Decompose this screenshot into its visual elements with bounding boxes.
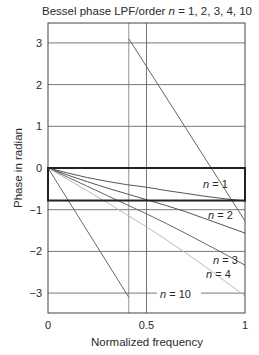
y-axis-label: Phase in radian <box>12 128 24 208</box>
x-tick-label: 0 <box>45 319 51 331</box>
y-tick-label: −2 <box>29 245 42 257</box>
series-label: n = 2 <box>208 209 233 221</box>
series-label: n = 4 <box>206 268 231 280</box>
series-label: n = 1 <box>203 178 228 190</box>
y-tick-label: 3 <box>36 37 42 49</box>
series-label: n = 10 <box>160 288 191 300</box>
y-tick-label: −3 <box>29 287 42 299</box>
x-axis-label: Normalized frequency <box>91 336 203 348</box>
series-label: n = 3 <box>213 254 238 266</box>
series-n10-line <box>48 168 129 297</box>
y-tick-label: 2 <box>36 79 42 91</box>
y-tick-label: 1 <box>36 120 42 132</box>
bessel-phase-chart: Bessel phase LPF/order n = 1, 2, 3, 4, 1… <box>0 0 259 355</box>
chart-title: Bessel phase LPF/order n = 1, 2, 3, 4, 1… <box>42 5 252 17</box>
y-tick-label: 0 <box>36 162 42 174</box>
x-tick-label: 0.5 <box>139 319 154 331</box>
x-tick-label: 1 <box>242 319 248 331</box>
y-tick-label: −1 <box>29 204 42 216</box>
